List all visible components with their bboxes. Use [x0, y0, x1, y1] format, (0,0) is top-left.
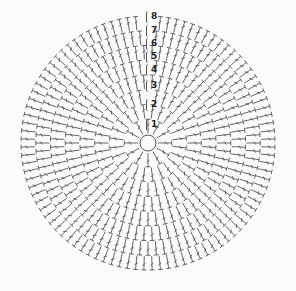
- round-label-6: 6: [151, 38, 157, 48]
- round-label-2: 2: [151, 99, 157, 109]
- round-label-8: 8: [151, 11, 157, 21]
- round-label-3: 3: [151, 80, 157, 90]
- round-label-5: 5: [151, 51, 157, 61]
- round-label-7: 7: [151, 25, 157, 35]
- magic-ring: [140, 135, 156, 151]
- round-label-4: 4: [151, 64, 157, 74]
- round-label-1: 1: [151, 119, 157, 129]
